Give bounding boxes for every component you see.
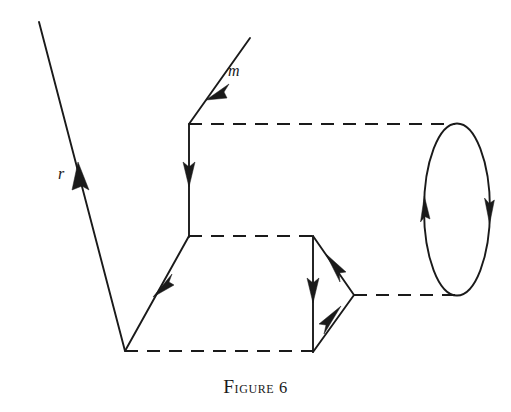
diagonal-fermion-arrow-icon: [153, 274, 174, 297]
figure-container: r m Figure 6: [0, 0, 511, 412]
r-line-arrow-icon: [72, 162, 89, 190]
label-m: m: [228, 62, 240, 79]
fermion-loop-ellipse: [424, 124, 490, 296]
caption-lead-letter: F: [223, 376, 234, 397]
r-external-line: [39, 22, 125, 351]
figure-caption: Figure 6: [0, 376, 511, 398]
triangle-lower-diagonal-edge: [313, 295, 354, 352]
caption-rest-text: igure 6: [235, 378, 288, 397]
m-external-line: [189, 38, 250, 124]
feynman-diagram: r m: [0, 0, 511, 412]
label-r: r: [58, 165, 65, 182]
loop-arrow-left-icon: [421, 196, 431, 222]
m-line-arrow-icon: [206, 84, 229, 100]
